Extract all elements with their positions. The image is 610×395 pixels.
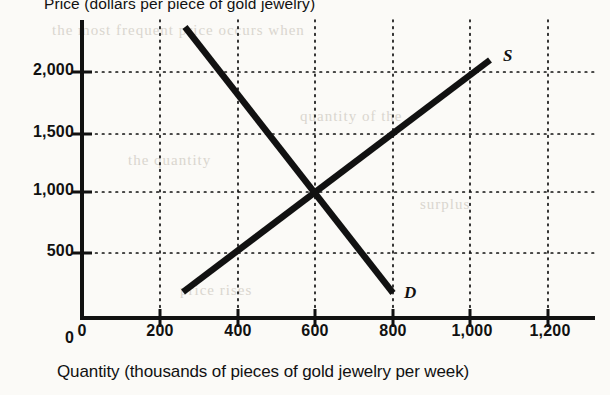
demand-curve-label: D: [404, 283, 416, 303]
x-tick-800: 800: [379, 322, 406, 340]
x-tick-1000: 1,000: [451, 322, 492, 340]
x-tick-0: 0: [77, 322, 86, 340]
supply-curve: [183, 60, 490, 292]
figure-container: the most frequent price occurs when quan…: [0, 0, 610, 395]
x-tick-400: 400: [224, 322, 251, 340]
x-tick-200: 200: [146, 322, 173, 340]
x-tick-1200: 1,200: [529, 322, 570, 340]
x-axis-label: Quantity (thousands of pieces of gold je…: [57, 362, 469, 382]
x-tick-600: 600: [301, 322, 328, 340]
supply-curve-label: S: [503, 46, 512, 66]
